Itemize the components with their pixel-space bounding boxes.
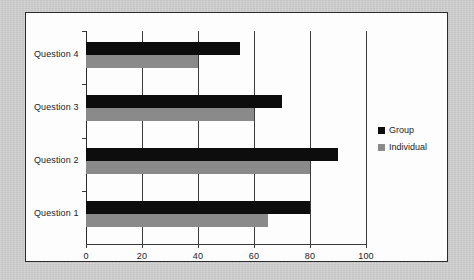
y-tick-mark <box>82 84 86 85</box>
bar-individual-question-3 <box>86 108 254 121</box>
x-tick-label: 80 <box>290 251 330 262</box>
bar-group-question-2 <box>86 148 338 161</box>
x-tick-label: 100 <box>346 251 386 262</box>
bar-individual-question-1 <box>86 214 268 227</box>
category-label: Question 4 <box>34 49 79 60</box>
x-tick-mark <box>366 244 367 248</box>
chart-panel: 020406080100Question 4Question 3Question… <box>25 12 448 262</box>
bar-group-question-1 <box>86 201 310 214</box>
legend-label: Group <box>389 125 414 135</box>
category-label: Question 1 <box>34 208 79 219</box>
category-label: Question 3 <box>34 102 79 113</box>
legend-item-group[interactable]: Group <box>378 125 427 135</box>
bar-group-question-3 <box>86 95 282 108</box>
x-gridline <box>366 31 367 244</box>
chart-legend: GroupIndividual <box>378 125 427 159</box>
legend-swatch-icon <box>378 144 385 151</box>
x-tick-label: 40 <box>178 251 218 262</box>
x-tick-label: 0 <box>66 251 106 262</box>
bar-individual-question-2 <box>86 161 310 174</box>
category-label: Question 2 <box>34 155 79 166</box>
legend-swatch-icon <box>378 127 385 134</box>
legend-item-individual[interactable]: Individual <box>378 142 427 152</box>
bar-group-question-4 <box>86 42 240 55</box>
bar-individual-question-4 <box>86 55 198 68</box>
x-axis-line <box>86 244 366 245</box>
x-gridline <box>310 31 311 244</box>
y-tick-mark <box>82 138 86 139</box>
legend-label: Individual <box>389 142 427 152</box>
y-tick-mark <box>82 31 86 32</box>
x-tick-label: 60 <box>234 251 274 262</box>
x-tick-label: 20 <box>122 251 162 262</box>
y-tick-mark <box>82 191 86 192</box>
